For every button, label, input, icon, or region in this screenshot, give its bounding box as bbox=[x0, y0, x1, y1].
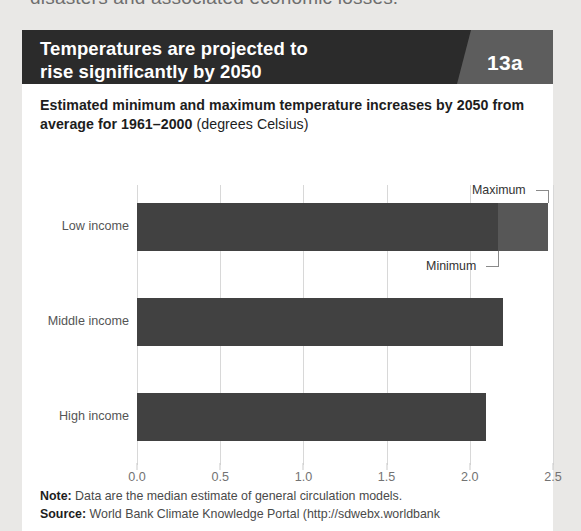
clipped-page-text: disasters and associated economic losses… bbox=[30, 0, 550, 11]
annotation-minimum-label: Minimum bbox=[426, 259, 476, 273]
annotation-maximum-leader-horizontal bbox=[536, 190, 548, 191]
source-text: World Bank Climate Knowledge Portal (htt… bbox=[86, 507, 440, 521]
note-text: Data are the median estimate of general … bbox=[72, 489, 403, 503]
chart-plot-area: Low incomeMiddle incomeHigh income 0.00.… bbox=[22, 185, 553, 475]
gridline bbox=[553, 185, 554, 465]
bar-segment-minimum bbox=[137, 298, 503, 346]
annotation-minimum-leader-horizontal bbox=[486, 266, 498, 267]
bar-segment-minimum bbox=[137, 203, 498, 251]
chart-category-labels: Low incomeMiddle incomeHigh income bbox=[22, 185, 135, 465]
chart-bar-row bbox=[137, 298, 553, 346]
tick-mark bbox=[220, 463, 221, 470]
chart-bar-row bbox=[137, 203, 553, 251]
figure-title: Temperatures are projected to rise signi… bbox=[40, 37, 450, 83]
x-axis-tick-label: 0.5 bbox=[211, 470, 229, 484]
figure-subtitle: Estimated minimum and maximum temperatur… bbox=[40, 96, 535, 134]
x-axis-tick-label: 1.5 bbox=[378, 470, 396, 484]
bar-segment-minimum bbox=[137, 393, 486, 441]
annotation-maximum-label: Maximum bbox=[472, 183, 526, 197]
annotation-maximum-leader-vertical bbox=[548, 190, 549, 203]
annotation-minimum-leader-vertical bbox=[498, 251, 499, 267]
figure-title-line-2: rise significantly by 2050 bbox=[40, 60, 450, 83]
chart-category-label: High income bbox=[59, 409, 129, 423]
chart-category-label: Middle income bbox=[48, 314, 129, 328]
figure-footnotes: Note: Data are the median estimate of ge… bbox=[40, 488, 543, 523]
figure-number-badge: 13a bbox=[457, 30, 553, 84]
tick-mark bbox=[553, 463, 554, 470]
x-axis-tick-label: 1.0 bbox=[295, 470, 313, 484]
source-label: Source: bbox=[40, 507, 86, 521]
tick-mark bbox=[137, 463, 138, 470]
note-line: Note: Data are the median estimate of ge… bbox=[40, 488, 543, 506]
figure-card: Temperatures are projected to rise signi… bbox=[22, 30, 553, 531]
chart-bar-row bbox=[137, 393, 553, 441]
figure-subtitle-units: (degrees Celsius) bbox=[193, 116, 309, 132]
bar-segment-maximum bbox=[498, 203, 548, 251]
x-axis-tick-label: 2.5 bbox=[544, 470, 562, 484]
chart-category-label: Low income bbox=[62, 219, 129, 233]
note-label: Note: bbox=[40, 489, 72, 503]
source-line: Source: World Bank Climate Knowledge Por… bbox=[40, 506, 543, 524]
tick-mark bbox=[303, 463, 304, 470]
tick-mark bbox=[469, 463, 470, 470]
tick-mark bbox=[386, 463, 387, 470]
x-axis-tick-label: 2.0 bbox=[461, 470, 479, 484]
x-axis-tick-label: 0.0 bbox=[128, 470, 146, 484]
figure-header: Temperatures are projected to rise signi… bbox=[22, 30, 553, 84]
figure-title-line-1: Temperatures are projected to bbox=[40, 37, 450, 60]
